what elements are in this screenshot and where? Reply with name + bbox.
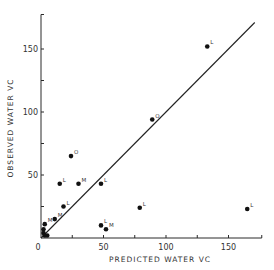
point-label: M (58, 212, 63, 218)
data-point: M (42, 217, 52, 226)
point-label: L (67, 200, 71, 206)
y-tick-label: 50 (28, 171, 38, 180)
data-point: O (150, 113, 160, 122)
point-label: O (155, 113, 160, 119)
point-label: M (48, 217, 53, 223)
data-point: M (52, 212, 62, 221)
point-label: O (74, 149, 79, 155)
data-point: L (99, 218, 108, 227)
data-point: L (205, 39, 214, 48)
data-point: L (245, 202, 254, 211)
point-label: M (109, 222, 114, 228)
scatter-chart: 50100150501001500 LOOLMLLLLMLMM PREDICTE… (0, 0, 274, 270)
y-axis-label: OBSERVED WATER VC (6, 78, 15, 177)
y-tick-label: 150 (23, 45, 38, 54)
point-label: M (82, 177, 87, 183)
point-label: L (104, 218, 108, 224)
data-point: L (137, 201, 146, 210)
origin-label: 0 (35, 243, 40, 252)
data-point: L (57, 177, 66, 186)
data-point: L (61, 200, 70, 209)
data-points: LOOLMLLLLMLMM (41, 39, 254, 237)
data-point: M (76, 177, 86, 186)
x-tick-label: 100 (158, 243, 173, 252)
x-axis-label: PREDICTED WATER VC (109, 255, 211, 264)
point-label: L (143, 201, 147, 207)
data-point (45, 233, 50, 238)
data-point: O (69, 149, 79, 158)
point-label: L (250, 202, 254, 208)
point-label: L (210, 39, 214, 45)
point-label: L (104, 177, 108, 183)
x-tick-label: 50 (98, 243, 108, 252)
y-tick-label: 100 (23, 108, 38, 117)
reference-line (41, 23, 255, 239)
point-label: L (63, 177, 67, 183)
x-tick-label: 150 (221, 243, 236, 252)
